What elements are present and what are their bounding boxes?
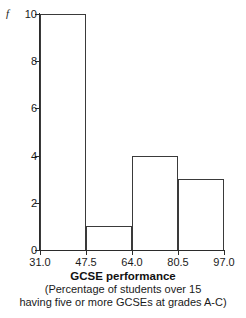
histogram-bar: [178, 179, 224, 250]
x-tick-label: 80.5: [167, 257, 188, 268]
caption-line-1: (Percentage of students over 15: [0, 283, 246, 296]
caption-line-2: having five or more GCSEs at grades A-C): [0, 296, 246, 309]
x-tick-label: 47.5: [75, 257, 96, 268]
x-axis-title: GCSE performance: [0, 269, 246, 283]
y-tick-label: 2: [31, 197, 37, 208]
y-tick-label: 0: [31, 245, 37, 256]
y-tick-label: 8: [31, 56, 37, 67]
x-tick-mark: [86, 250, 87, 255]
histogram-bar: [86, 226, 132, 250]
histogram-figure: f 0246810 31.047.564.080.597.0 GCSE perf…: [0, 0, 246, 318]
histogram-bar: [40, 14, 86, 250]
x-tick-label: 31.0: [29, 257, 50, 268]
x-tick-mark: [132, 250, 133, 255]
plot-area: 0246810 31.047.564.080.597.0: [40, 14, 224, 250]
x-tick-mark: [224, 250, 225, 255]
x-tick-mark: [40, 250, 41, 255]
y-tick-label: 10: [25, 9, 37, 20]
caption-block: GCSE performance (Percentage of students…: [0, 269, 246, 309]
histogram-bar: [132, 156, 178, 250]
x-tick-label: 97.0: [213, 257, 234, 268]
x-tick-label: 64.0: [121, 257, 142, 268]
y-tick-label: 4: [31, 150, 37, 161]
x-tick-mark: [178, 250, 179, 255]
y-axis-label: f: [6, 8, 9, 19]
y-tick-label: 6: [31, 103, 37, 114]
